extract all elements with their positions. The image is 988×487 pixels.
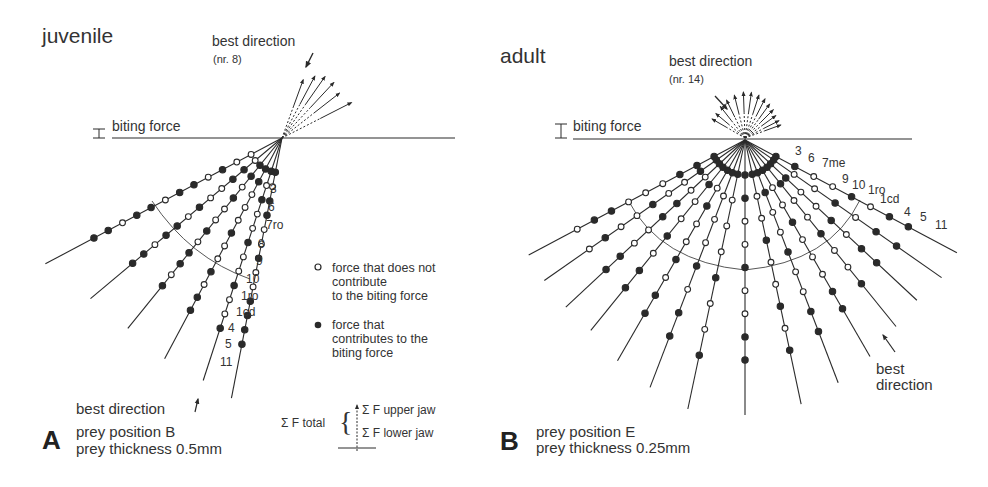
open-bead-icon bbox=[643, 190, 649, 196]
result-vector-dashed bbox=[282, 104, 306, 138]
open-bead-icon bbox=[666, 191, 672, 197]
filled-bead-icon bbox=[602, 235, 608, 241]
sigma-total-label: Σ F total bbox=[281, 416, 325, 430]
filled-bead-icon bbox=[186, 250, 192, 256]
open-bead-icon bbox=[742, 241, 748, 247]
open-bead-icon bbox=[832, 248, 838, 254]
panel-b-biting-force-label: biting force bbox=[573, 119, 641, 133]
open-bead-icon bbox=[626, 199, 632, 205]
open-bead-icon bbox=[773, 281, 779, 287]
open-bead-icon bbox=[201, 282, 207, 288]
filled-bead-icon bbox=[742, 195, 748, 201]
ray-label: 7ro bbox=[266, 218, 283, 232]
ray-label: 9 bbox=[256, 254, 263, 268]
ray-label: 8 bbox=[258, 237, 265, 251]
filled-bead-icon bbox=[245, 239, 251, 245]
filled-bead-icon bbox=[787, 347, 793, 353]
filled-bead-icon bbox=[832, 200, 838, 206]
ray-label: 5 bbox=[225, 337, 232, 351]
filled-bead-icon bbox=[777, 181, 783, 187]
open-bead-icon bbox=[683, 239, 689, 245]
open-bead-icon bbox=[586, 246, 592, 252]
panel-a-biting-force-label: biting force bbox=[112, 119, 180, 133]
filled-bead-icon bbox=[652, 292, 658, 298]
panel-a-prey-position: prey position B bbox=[76, 424, 175, 440]
filled-bead-icon bbox=[858, 245, 864, 251]
open-bead-icon bbox=[729, 197, 735, 203]
panel-b-prey-thickness: prey thickness 0.25mm bbox=[536, 440, 690, 456]
ray-label: 7me bbox=[822, 156, 845, 170]
ray-label: 3 bbox=[795, 144, 802, 158]
filled-bead-icon bbox=[783, 175, 789, 181]
sigma-upper-label: Σ F upper jaw bbox=[362, 403, 435, 417]
filled-bead-icon bbox=[231, 282, 237, 288]
open-bead-icon bbox=[205, 174, 211, 180]
filled-bead-icon bbox=[217, 325, 223, 331]
open-bead-icon bbox=[682, 179, 688, 185]
ray-label: 6 bbox=[808, 151, 815, 165]
filled-bead-icon bbox=[134, 212, 140, 218]
open-bead-icon bbox=[678, 216, 684, 222]
open-bead-icon bbox=[663, 275, 669, 281]
open-bead-icon bbox=[718, 249, 724, 255]
open-bead-icon bbox=[240, 254, 246, 260]
filled-bead-icon bbox=[176, 189, 182, 195]
open-bead-icon bbox=[168, 272, 174, 278]
open-bead-icon bbox=[853, 215, 859, 221]
open-bead-icon bbox=[714, 185, 720, 191]
ray-label: 10 bbox=[852, 178, 865, 192]
open-bead-icon bbox=[242, 205, 248, 211]
open-bead-icon bbox=[820, 271, 826, 277]
filled-bead-icon bbox=[256, 179, 262, 185]
panel-a-bottom-best-direction: best direction bbox=[76, 401, 165, 417]
open-bead-icon bbox=[712, 216, 718, 222]
filled-bead-icon bbox=[785, 249, 791, 255]
open-bead-icon bbox=[250, 225, 256, 231]
ray-label: 1ro bbox=[241, 289, 258, 303]
filled-bead-icon bbox=[636, 267, 642, 273]
panel-b-best-direction-label: best direction bbox=[669, 54, 752, 68]
filled-bead-icon bbox=[808, 308, 814, 314]
filled-bead-icon bbox=[241, 167, 247, 173]
panel-a-letter: A bbox=[42, 425, 61, 456]
filled-bead-icon bbox=[742, 172, 748, 178]
filled-bead-icon bbox=[660, 214, 666, 220]
filled-bead-icon bbox=[242, 327, 248, 333]
open-bead-icon bbox=[222, 206, 228, 212]
filled-bead-icon bbox=[603, 266, 609, 272]
ray-label: 5 bbox=[920, 210, 927, 224]
open-bead-icon bbox=[759, 215, 765, 221]
filled-bead-icon bbox=[848, 193, 854, 199]
result-vector-dashed bbox=[744, 113, 745, 138]
open-bead-icon bbox=[646, 227, 652, 233]
ray-label: 1cd bbox=[880, 192, 899, 206]
panel-b-title: adult bbox=[500, 44, 546, 68]
open-bead-icon bbox=[793, 269, 799, 275]
result-vector-dashed bbox=[282, 104, 300, 138]
open-bead-icon bbox=[800, 237, 806, 243]
open-bead-icon bbox=[791, 172, 797, 178]
filled-bead-icon bbox=[789, 219, 795, 225]
filled-bead-icon bbox=[673, 256, 679, 262]
open-bead-icon bbox=[845, 264, 851, 270]
open-bead-icon bbox=[694, 221, 700, 227]
open-bead-icon bbox=[252, 158, 258, 164]
open-bead-icon bbox=[770, 209, 776, 215]
open-bead-icon bbox=[660, 181, 666, 187]
open-bead-icon bbox=[702, 326, 708, 332]
legend-filled-line-1: force that bbox=[332, 318, 428, 332]
filled-bead-icon bbox=[272, 169, 278, 175]
open-bead-icon bbox=[782, 325, 788, 331]
open-bead-icon bbox=[248, 152, 254, 158]
open-bead-icon bbox=[702, 174, 708, 180]
open-bead-icon bbox=[843, 232, 849, 238]
open-bead-icon bbox=[195, 239, 201, 245]
filled-bead-icon bbox=[622, 284, 628, 290]
filled-bead-icon bbox=[650, 201, 656, 207]
filled-bead-icon bbox=[208, 268, 214, 274]
ray-label: 6 bbox=[268, 200, 275, 214]
open-bead-icon bbox=[222, 311, 228, 317]
filled-bead-icon bbox=[642, 310, 648, 316]
result-vector-arrow-icon bbox=[765, 125, 781, 131]
legend-open-circle-icon bbox=[315, 264, 321, 270]
